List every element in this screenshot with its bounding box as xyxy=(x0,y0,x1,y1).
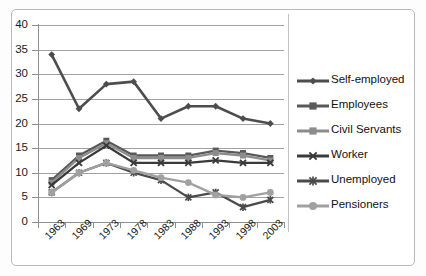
screenshot-frame: 0510152025303540 19631969197319781983198… xyxy=(0,0,426,276)
legend-marker-diamond-icon xyxy=(296,73,330,85)
legend-marker-cross-icon xyxy=(296,173,330,185)
legend-label: Pensioners xyxy=(330,198,389,210)
legend-divider xyxy=(288,14,289,232)
y-axis-tick-label: 10 xyxy=(2,167,28,178)
legend-marker-x-icon xyxy=(296,148,330,160)
y-axis-tick-label: 15 xyxy=(2,142,28,153)
legend-item: Unemployed xyxy=(296,166,412,191)
legend-label: Civil Servants xyxy=(330,123,401,135)
legend-item: Employees xyxy=(296,91,412,116)
legend-item: Pensioners xyxy=(296,191,412,216)
legend-label: Unemployed xyxy=(330,173,396,185)
y-axis-tick-label: 5 xyxy=(2,191,28,202)
y-axis-tick-label: 30 xyxy=(2,68,28,79)
y-axis-tick-label: 35 xyxy=(2,44,28,55)
legend-label: Employees xyxy=(330,98,388,110)
legend-item: Self-employed xyxy=(296,66,412,91)
legend-marker-circle-icon xyxy=(296,198,330,210)
y-axis-tick-label: 40 xyxy=(2,19,28,30)
legend-label: Self-employed xyxy=(330,73,405,85)
chart-series-layer xyxy=(38,25,284,222)
chart-legend: Self-employedEmployeesCivil ServantsWork… xyxy=(296,66,412,218)
legend-marker-square-icon xyxy=(296,98,330,110)
y-axis-tick-label: 25 xyxy=(2,93,28,104)
legend-label: Worker xyxy=(330,148,368,160)
legend-marker-square-icon xyxy=(296,123,330,135)
legend-item: Worker xyxy=(296,141,412,166)
series-self-employed xyxy=(48,51,273,127)
legend-item: Civil Servants xyxy=(296,116,412,141)
x-axis-tick xyxy=(38,222,39,228)
series-unemployed xyxy=(49,159,274,211)
y-axis-tick-label: 0 xyxy=(2,216,28,227)
y-axis-tick-label: 20 xyxy=(2,118,28,129)
